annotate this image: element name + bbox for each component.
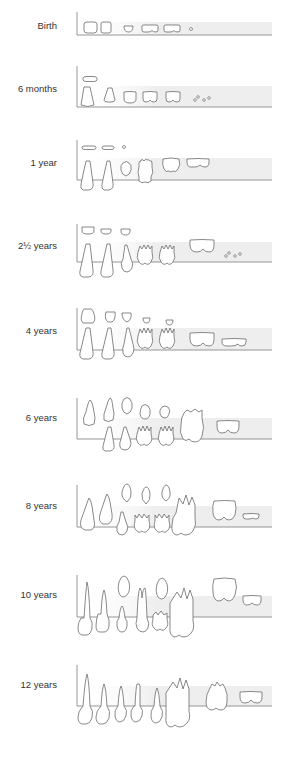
teeth-diagram-birth [0, 0, 281, 50]
stage-6-months: 6 months [0, 54, 281, 114]
teeth-diagram-4-years [0, 295, 281, 390]
stage-12-years: 12 years [0, 652, 281, 757]
stage-birth: Birth [0, 0, 281, 50]
stage-1-year: 1 year [0, 128, 281, 198]
teeth-diagram-6-months [0, 54, 281, 114]
stage-2-half-years: 2½ years [0, 212, 281, 292]
teeth-diagram-10-years [0, 562, 281, 654]
teeth-diagram-2-half-years [0, 212, 281, 292]
teeth-diagram-1-year [0, 128, 281, 198]
teeth-diagram-12-years [0, 652, 281, 757]
stage-6-years: 6 years [0, 385, 281, 475]
teeth-diagram-6-years [0, 385, 281, 475]
stage-10-years: 10 years [0, 562, 281, 654]
stage-8-years: 8 years [0, 472, 281, 564]
teeth-diagram-8-years [0, 472, 281, 564]
stage-4-years: 4 years [0, 295, 281, 390]
